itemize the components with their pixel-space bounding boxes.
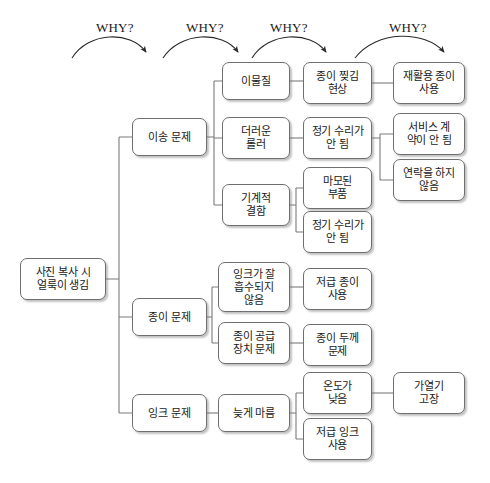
node-low-grade-paper-use-label: 저급 종이 사용 xyxy=(306,276,369,302)
node-no-service-contract[interactable]: 서비스 계 약이 안 됨 xyxy=(393,113,465,155)
node-transport-problem-label: 이송 문제 xyxy=(135,131,204,144)
node-no-regular-repair-2[interactable]: 정기 수리가 안 됨 xyxy=(303,211,372,253)
node-no-regular-repair-1[interactable]: 정기 수리가 안 됨 xyxy=(303,117,372,159)
why-arrow-3 xyxy=(252,37,326,58)
node-paper-thickness-problem-label: 종이 두께 문제 xyxy=(306,332,369,358)
node-paper-feeder-problem[interactable]: 종이 공급 장치 문제 xyxy=(218,322,290,364)
why-arrow-4 xyxy=(355,36,444,58)
node-mechanical-defect[interactable]: 기계적 결함 xyxy=(222,184,290,226)
why-label-2: WHY? xyxy=(186,20,224,36)
node-ink-problem-label: 잉크 문제 xyxy=(135,407,204,420)
node-ink-not-absorbed[interactable]: 잉크가 잘 흡수되지 않음 xyxy=(218,262,290,312)
node-recycled-paper-use-label: 재활용 종이 사용 xyxy=(396,70,462,96)
why-why-diagram-canvas: 사진 복사 시 얼룩이 생김이송 문제종이 문제잉크 문제이물질더러운 롤러기계… xyxy=(0,0,490,483)
node-worn-parts-label: 마모된 부품 xyxy=(306,175,369,201)
node-transport-problem[interactable]: 이송 문제 xyxy=(132,118,207,156)
why-label-4: WHY? xyxy=(389,20,427,36)
connector-root-to-level2 xyxy=(106,137,132,413)
node-heater-failure-label: 가열기 고장 xyxy=(396,380,462,406)
why-arrow-group xyxy=(72,36,444,58)
why-arrow-2 xyxy=(163,37,238,58)
node-low-grade-ink-use[interactable]: 저급 잉크 사용 xyxy=(303,418,372,460)
why-arrow-1 xyxy=(72,37,146,58)
node-low-grade-ink-use-label: 저급 잉크 사용 xyxy=(306,426,369,452)
node-paper-thickness-problem[interactable]: 종이 두께 문제 xyxy=(303,324,372,366)
node-heater-failure[interactable]: 가열기 고장 xyxy=(393,372,465,414)
node-ink-not-absorbed-label: 잉크가 잘 흡수되지 않음 xyxy=(221,268,287,307)
node-ink-problem[interactable]: 잉크 문제 xyxy=(132,394,207,432)
node-foreign-matter[interactable]: 이물질 xyxy=(222,62,290,100)
node-no-service-contract-label: 서비스 계 약이 안 됨 xyxy=(396,121,462,147)
node-paper-tearing[interactable]: 종이 찢김 현상 xyxy=(303,62,372,104)
node-root[interactable]: 사진 복사 시 얼룩이 생김 xyxy=(20,258,106,300)
node-dirty-roller[interactable]: 더러운 롤러 xyxy=(222,117,290,159)
node-recycled-paper-use[interactable]: 재활용 종이 사용 xyxy=(393,62,465,104)
connector-paper-children xyxy=(207,287,218,343)
node-no-contact-made-label: 연락을 하지 않음 xyxy=(396,167,462,193)
node-low-temperature-label: 온도가 낮음 xyxy=(306,380,369,406)
node-dirty-roller-label: 더러운 롤러 xyxy=(225,125,287,151)
node-no-regular-repair-2-label: 정기 수리가 안 됨 xyxy=(306,219,369,245)
node-paper-problem-label: 종이 문제 xyxy=(135,311,204,324)
connector-mech-children xyxy=(290,188,303,232)
node-late-drying-label: 늦게 마름 xyxy=(221,407,287,420)
why-label-3: WHY? xyxy=(270,20,308,36)
node-no-regular-repair-1-label: 정기 수리가 안 됨 xyxy=(306,125,369,151)
node-low-grade-paper-use[interactable]: 저급 종이 사용 xyxy=(303,268,372,310)
node-foreign-matter-label: 이물질 xyxy=(225,75,287,88)
connector-maint-children xyxy=(372,134,393,180)
node-paper-tearing-label: 종이 찢김 현상 xyxy=(306,70,369,96)
connector-transport-children xyxy=(207,81,222,205)
node-paper-feeder-problem-label: 종이 공급 장치 문제 xyxy=(221,330,287,356)
node-low-temperature[interactable]: 온도가 낮음 xyxy=(303,372,372,414)
connector-latedry-children xyxy=(290,393,303,439)
why-label-1: WHY? xyxy=(96,20,134,36)
node-late-drying[interactable]: 늦게 마름 xyxy=(218,394,290,432)
node-paper-problem[interactable]: 종이 문제 xyxy=(132,298,207,336)
node-no-contact-made[interactable]: 연락을 하지 않음 xyxy=(393,159,465,201)
node-root-label: 사진 복사 시 얼룩이 생김 xyxy=(23,266,103,292)
node-mechanical-defect-label: 기계적 결함 xyxy=(225,192,287,218)
node-worn-parts[interactable]: 마모된 부품 xyxy=(303,167,372,209)
